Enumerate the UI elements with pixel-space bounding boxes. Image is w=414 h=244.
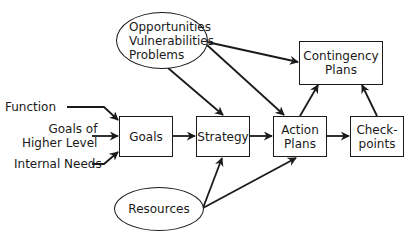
node-text-vulnerabilities: Vulnerabilities <box>129 34 214 48</box>
arrow-function-to-goals <box>67 107 118 120</box>
node-resources: Resources <box>114 187 204 231</box>
node-text-contingency: Contingency <box>303 49 378 63</box>
node-text-problems: Problems <box>129 48 184 62</box>
node-contingency-plans: Contingency Plans <box>299 41 383 85</box>
input-label-goals-higher-line1: Goals of <box>12 122 97 136</box>
node-text-strategy: Strategy <box>197 130 248 144</box>
node-text-resources: Resources <box>128 202 189 216</box>
node-goals: Goals <box>119 116 173 157</box>
arrow-resources-to-action <box>203 158 296 208</box>
node-text-points: points <box>359 137 396 151</box>
node-checkpoints: Check- points <box>350 116 404 157</box>
node-text-action-plans: Plans <box>284 137 316 151</box>
arrow-opportunities-to-strategy <box>168 68 223 115</box>
input-label-goals-higher-line2: Higher Level <box>12 136 97 150</box>
node-strategy: Strategy <box>196 116 250 157</box>
node-text-goals: Goals <box>129 130 163 144</box>
node-text-contingency-plans: Plans <box>325 63 357 77</box>
arrow-action-to-contingency <box>300 85 318 116</box>
node-text-check: Check- <box>356 123 397 137</box>
arrow-opportunities-to-contingency <box>207 42 298 62</box>
input-label-function: Function <box>5 100 56 114</box>
arrow-resources-to-strategy <box>203 158 222 208</box>
node-text-opportunities: Opportunities <box>129 20 211 34</box>
node-text-action: Action <box>281 123 319 137</box>
input-label-internal-needs: Internal Needs <box>14 157 102 171</box>
input-label-goals-higher-level: Goals of Higher Level <box>12 122 97 150</box>
node-opportunities-vulnerabilities-problems: Opportunities Vulnerabilities Problems <box>116 12 208 69</box>
node-action-plans: Action Plans <box>273 116 327 157</box>
arrow-checkpoints-to-contingency <box>362 85 377 116</box>
